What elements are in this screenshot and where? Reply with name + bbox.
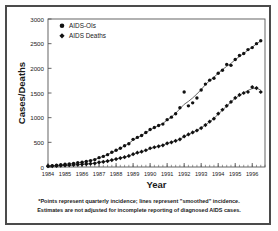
point-death-19 (127, 154, 131, 158)
point-death-0 (46, 164, 50, 168)
y-tick-label-5: 2500 (30, 40, 44, 47)
legend-label-aids-deaths: AIDS Deaths (69, 32, 106, 39)
point-death-23 (144, 148, 148, 152)
point-death-46 (242, 91, 246, 95)
point-ois-33 (187, 104, 190, 107)
x-axis-title: Year (146, 179, 166, 190)
point-death-31 (178, 137, 182, 141)
point-death-18 (122, 155, 126, 159)
y-tick-label-2: 1000 (30, 114, 44, 121)
point-death-13 (101, 160, 105, 164)
point-ois-40 (217, 72, 220, 75)
point-ois-11 (93, 158, 96, 161)
point-ois-47 (246, 48, 249, 51)
point-death-12 (97, 160, 101, 164)
plot-frame (48, 19, 265, 167)
point-death-10 (88, 162, 92, 166)
chart-legend: AIDS-OIsAIDS Deaths (59, 22, 106, 39)
point-ois-31 (178, 106, 181, 109)
point-ois-42 (225, 63, 228, 66)
point-ois-16 (114, 149, 117, 152)
point-ois-43 (229, 64, 232, 67)
x-tick-label-5: 1989 (127, 171, 139, 177)
footnote: *Points represent quarterly incidence; l… (37, 198, 241, 213)
point-ois-20 (131, 138, 134, 141)
point-death-26 (157, 144, 161, 148)
x-tick-label-9: 1993 (195, 171, 207, 177)
point-death-17 (118, 156, 122, 160)
point-ois-36 (199, 88, 202, 91)
y-tick-label-4: 2000 (30, 65, 44, 72)
point-death-14 (105, 159, 109, 163)
point-death-21 (135, 151, 139, 155)
point-death-27 (161, 143, 165, 147)
y-axis-title: Cases/Deaths (16, 62, 27, 124)
point-ois-29 (170, 115, 173, 118)
point-death-30 (174, 139, 178, 143)
point-death-16 (114, 157, 118, 161)
footnote-line-1: *Points represent quarterly incidence; l… (38, 198, 240, 204)
footnote-line-2: Estimates are not adjusted for incomplet… (37, 207, 241, 213)
point-death-29 (169, 140, 173, 144)
point-ois-45 (238, 54, 241, 57)
point-ois-23 (144, 131, 147, 134)
point-ois-30 (174, 112, 177, 115)
point-ois-25 (153, 126, 156, 129)
point-ois-12 (97, 156, 100, 159)
point-death-28 (165, 141, 169, 145)
point-death-34 (191, 130, 195, 134)
point-ois-26 (157, 124, 160, 127)
point-ois-46 (242, 52, 245, 55)
x-tick-label-7: 1991 (161, 171, 173, 177)
point-ois-18 (123, 144, 126, 147)
x-tick-label-8: 1992 (178, 171, 190, 177)
point-ois-38 (208, 78, 211, 81)
point-ois-37 (204, 82, 207, 85)
y-tick-label-1: 500 (34, 139, 45, 146)
point-ois-39 (212, 77, 215, 80)
point-ois-50 (259, 39, 262, 42)
x-tick-label-2: 1986 (76, 171, 88, 177)
point-ois-15 (110, 151, 113, 154)
point-ois-48 (251, 46, 254, 49)
point-ois-44 (234, 58, 237, 61)
point-ois-35 (195, 96, 198, 99)
point-death-50 (259, 90, 263, 94)
x-tick-label-0: 1984 (42, 171, 54, 177)
x-tick-label-3: 1987 (93, 171, 105, 177)
point-death-24 (148, 146, 152, 150)
point-ois-21 (136, 136, 139, 139)
point-death-11 (93, 161, 97, 165)
point-ois-27 (161, 122, 164, 125)
point-ois-17 (119, 147, 122, 150)
figure-container: 050010001500200025003000 198419851986198… (0, 0, 278, 231)
y-tick-label-6: 3000 (30, 16, 44, 23)
x-tick-label-10: 1994 (212, 171, 224, 177)
point-ois-41 (221, 69, 224, 72)
legend-marker-aids-ois (60, 24, 65, 29)
y-tick-label-3: 1500 (30, 90, 44, 97)
point-death-47 (246, 90, 250, 94)
point-death-49 (254, 86, 258, 90)
point-death-22 (140, 150, 144, 154)
point-ois-14 (106, 153, 109, 156)
x-tick-label-4: 1988 (110, 171, 122, 177)
point-death-1 (50, 164, 54, 168)
legend-marker-aids-deaths (59, 33, 64, 38)
point-death-20 (131, 152, 135, 156)
point-death-33 (186, 132, 190, 136)
point-death-15 (110, 158, 114, 162)
x-tick-label-6: 1990 (144, 171, 156, 177)
point-ois-34 (191, 101, 194, 104)
point-death-9 (84, 162, 88, 166)
aids-incidence-chart: 050010001500200025003000 198419851986198… (0, 0, 278, 231)
x-tick-label-1: 1985 (59, 171, 71, 177)
x-tick-label-12: 1996 (246, 171, 258, 177)
point-ois-24 (148, 128, 151, 131)
point-ois-49 (255, 42, 258, 45)
point-ois-13 (102, 155, 105, 158)
x-tick-label-11: 1995 (229, 171, 241, 177)
point-death-25 (152, 145, 156, 149)
point-ois-22 (140, 134, 143, 137)
legend-label-aids-ois: AIDS-OIs (69, 22, 96, 29)
